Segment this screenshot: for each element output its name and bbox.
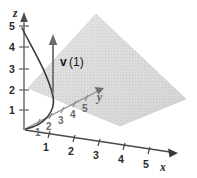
x-tick-label-1: 1 <box>43 141 49 153</box>
z-tick-label-3: 3 <box>9 63 15 75</box>
vector-label-name: v <box>60 55 67 69</box>
z-tick-label-4: 4 <box>9 41 15 53</box>
vector-label-argument: (1) <box>69 55 84 69</box>
vector-label: v (1) <box>60 55 84 69</box>
y-tick-label-2: 2 <box>46 121 52 132</box>
z-axis <box>19 12 29 130</box>
figure-3d-plot: 5 4 3 2 1 1 2 3 4 5 1 2 3 4 5 z y x v (1… <box>0 0 197 178</box>
x-tick-label-2: 2 <box>68 145 74 157</box>
z-tick-label-5: 5 <box>9 20 15 32</box>
z-tick-label-2: 2 <box>9 84 15 96</box>
z-tick-label-1: 1 <box>9 104 15 116</box>
x-tick-label-4: 4 <box>118 153 124 165</box>
y-tick-label-1: 1 <box>35 127 41 138</box>
plot-canvas: 5 4 3 2 1 1 2 3 4 5 1 2 3 4 5 z y x v (1… <box>0 0 197 178</box>
y-tick-label-3: 3 <box>58 115 64 126</box>
y-tick-label-5: 5 <box>82 103 88 114</box>
x-tick-label-3: 3 <box>93 149 99 161</box>
x-tick-label-5: 5 <box>143 158 149 170</box>
x-axis-label: x <box>159 161 166 173</box>
z-axis-label: z <box>12 7 18 19</box>
y-tick-label-4: 4 <box>70 109 76 120</box>
y-axis-label: y <box>95 91 103 104</box>
